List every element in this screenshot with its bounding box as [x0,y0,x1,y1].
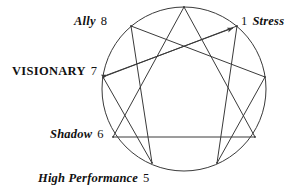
arrow-seven-to-one [107,28,233,75]
label-high-performance-name: High Performance [38,171,138,185]
node-3 [254,136,256,138]
label-stress-number: 1 [241,14,247,28]
label-high-performance-number: 5 [143,171,149,185]
label-ally-8: Ally8 [74,15,107,28]
label-visionary-number: 7 [91,64,98,78]
label-stress-name: Stress [252,14,284,28]
node-7 [102,76,104,78]
enneagram-diagram: Ally8 1Stress VISIONARY7 Shadow6 High Pe… [0,0,300,196]
node-5 [151,162,153,164]
node-6 [112,136,114,138]
label-ally-name: Ally [74,14,96,28]
label-shadow-name: Shadow [50,127,92,141]
label-visionary-name: VISIONARY [12,64,86,78]
label-shadow-number: 6 [97,127,103,141]
node-1 [236,25,238,27]
enneagram-triangle [113,7,255,137]
label-stress-1: 1Stress [241,15,284,28]
node-8 [130,25,132,27]
label-shadow-6: Shadow6 [50,128,104,141]
label-visionary-7: VISIONARY7 [12,65,97,78]
enneagram-circle [102,7,266,171]
enneagram-figure [0,0,300,196]
node-2 [264,76,266,78]
label-ally-number: 8 [101,14,107,28]
node-4 [216,162,218,164]
label-high-performance-5: High Performance5 [38,172,150,185]
node-9 [183,6,185,8]
